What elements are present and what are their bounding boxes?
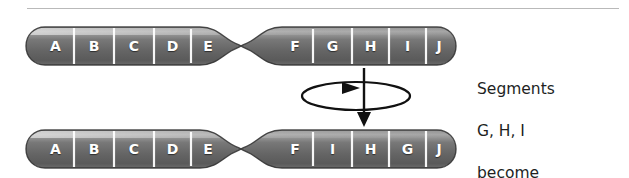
rotation-axis-arrowhead (357, 112, 371, 127)
inverted-chromosome: A B C D E F I H G J (25, 129, 457, 169)
chromosome-inversion-figure: A B C D E F G H I J (0, 0, 629, 178)
caption-block: Segments G, H, I become inverted (477, 58, 625, 178)
top-divider-rule (27, 8, 619, 9)
caption-line-1: Segments (477, 79, 625, 100)
rotation-ellipse (302, 82, 410, 110)
original-chromosome: A B C D E F G H I J (25, 26, 457, 66)
caption-line-2: G, H, I (477, 121, 625, 142)
chromosome-shape-bottom (25, 129, 457, 169)
caption-line-3: become (477, 163, 625, 178)
rotation-ellipse-arrowhead (342, 82, 360, 94)
rotation-arrow-icon (292, 66, 420, 128)
chromosome-shape-top (25, 26, 457, 66)
